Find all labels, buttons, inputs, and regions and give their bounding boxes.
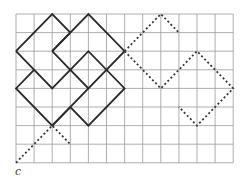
figure-label: c — [15, 165, 21, 178]
grid-pattern-diagram — [0, 0, 243, 184]
solid-path — [52, 33, 70, 52]
solid-path — [52, 51, 70, 70]
